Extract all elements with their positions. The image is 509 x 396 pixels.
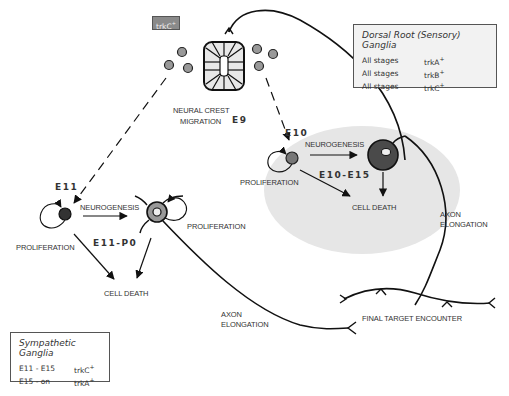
final-target-label: FINAL TARGET ENCOUNTER: [362, 314, 462, 323]
target-branch-right: [442, 302, 452, 307]
target-branch-end: [489, 298, 495, 308]
legend-drg-receptor: trkA+: [424, 55, 445, 67]
neural-crest-cells-right: [253, 45, 278, 71]
legend-drg-row: All stages trkA+: [362, 54, 488, 67]
stage-e9: E9: [232, 115, 247, 125]
target-branch-left: [340, 295, 346, 303]
stage-e11: E11: [55, 182, 78, 192]
sympathetic-proliferation-right-label: PROLIFERATION: [187, 222, 246, 231]
drg-neuron-nucleus: [382, 149, 391, 156]
legend-drg-row: All stages trkC+: [362, 80, 488, 93]
legend-drg: Dorsal Root (Sensory) Ganglia All stages…: [353, 24, 497, 88]
growth-cone-top: [225, 28, 233, 34]
migration-path-sympathetic: [74, 78, 166, 203]
drg-progenitor-cell: [286, 152, 298, 164]
stage-e10-e15: E10-E15: [319, 170, 371, 180]
target-branch-mid: [376, 289, 386, 295]
trkc-tag: trkC+: [152, 16, 180, 30]
sympathetic-cell-death-label: CELL DEATH: [104, 289, 148, 298]
trkc-tag-text: trkC: [156, 22, 172, 31]
growth-cone-sympathetic: [348, 322, 356, 334]
legend-sympathetic-title: Sympathetic Ganglia: [19, 338, 101, 358]
legend-drg-stage: All stages: [362, 56, 424, 65]
legend-drg-title: Dorsal Root (Sensory) Ganglia: [362, 30, 488, 50]
sympathetic-neuron-proliferation-loop: [165, 198, 187, 221]
legend-sympathetic-receptor: trkC+: [74, 363, 95, 375]
legend-drg-stage: All stages: [362, 82, 424, 91]
legend-sympathetic-stage: E15 - on: [19, 377, 74, 386]
legend-drg-stage: All stages: [362, 69, 424, 78]
legend-sympathetic-row: E11 - E15 trkC+: [19, 362, 101, 375]
drg-neurogenesis-label: NEUROGENESIS: [305, 140, 364, 149]
neural-tube-icon: [204, 42, 244, 90]
drg-cell-death-label: CELL DEATH: [352, 203, 396, 212]
sympathetic-elongation-label: ELONGATION: [221, 320, 269, 329]
sympathetic-proliferation-left-label: PROLIFERATION: [16, 243, 75, 252]
sympathetic-progenitor-cell: [59, 208, 71, 220]
neural-crest-cells-left: [165, 48, 193, 73]
drg-axon-label: AXON: [440, 210, 461, 219]
legend-sympathetic-receptor: trkA+: [74, 376, 95, 388]
legend-sympathetic-stage: E11 - E15: [19, 364, 74, 373]
sympathetic-neurogenesis-label: NEUROGENESIS: [80, 203, 139, 212]
migration-label: MIGRATION: [180, 117, 221, 126]
legend-sympathetic-row: E15 - on trkA+: [19, 375, 101, 388]
trkc-tag-sup: +: [172, 20, 176, 26]
drg-elongation-label: ELONGATION: [440, 220, 488, 229]
sympathetic-axon-label: AXON: [221, 310, 242, 319]
sympathetic-death-arrow-right: [137, 238, 151, 278]
legend-sympathetic: Sympathetic Ganglia E11 - E15 trkC+ E15 …: [10, 332, 110, 382]
drg-proliferation-label: PROLIFERATION: [240, 178, 299, 187]
stage-e10: E10: [285, 128, 308, 138]
sympathetic-neuron: [135, 196, 183, 233]
legend-drg-receptor: trkB+: [424, 68, 445, 80]
stage-e11-p0: E11-P0: [93, 238, 137, 248]
legend-drg-receptor: trkC+: [424, 81, 445, 93]
legend-drg-row: All stages trkB+: [362, 67, 488, 80]
neural-crest-label: NEURAL CREST: [173, 106, 229, 115]
